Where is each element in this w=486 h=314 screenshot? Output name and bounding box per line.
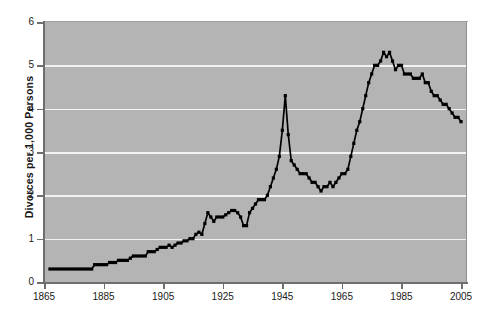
- data-point: [439, 98, 442, 101]
- data-point: [272, 176, 275, 179]
- data-point: [403, 72, 406, 75]
- data-point: [376, 64, 379, 67]
- data-point: [153, 250, 156, 253]
- data-point: [275, 168, 278, 171]
- data-point: [388, 51, 391, 54]
- data-point: [245, 224, 248, 227]
- data-point: [159, 246, 162, 249]
- data-point: [138, 254, 141, 257]
- data-point: [54, 267, 57, 270]
- data-point: [331, 185, 334, 188]
- data-point: [117, 259, 120, 262]
- data-point: [96, 263, 99, 266]
- data-point: [278, 155, 281, 158]
- data-point: [430, 90, 433, 93]
- data-point: [418, 77, 421, 80]
- data-point: [302, 172, 305, 175]
- data-point: [170, 246, 173, 249]
- data-point: [373, 64, 376, 67]
- data-point: [123, 259, 126, 262]
- data-point: [284, 94, 287, 97]
- data-point: [230, 209, 233, 212]
- data-point: [179, 241, 182, 244]
- data-point: [346, 168, 349, 171]
- data-point: [424, 81, 427, 84]
- data-point: [316, 185, 319, 188]
- data-point: [415, 77, 418, 80]
- data-point: [382, 51, 385, 54]
- data-point: [188, 237, 191, 240]
- data-point: [168, 244, 171, 247]
- data-point: [385, 55, 388, 58]
- data-point: [296, 168, 299, 171]
- data-point: [206, 211, 209, 214]
- data-point: [105, 263, 108, 266]
- data-point: [406, 72, 409, 75]
- data-point: [233, 209, 236, 212]
- data-point: [290, 159, 293, 162]
- data-point: [150, 250, 153, 253]
- data-point: [141, 254, 144, 257]
- data-point: [397, 64, 400, 67]
- data-point: [197, 231, 200, 234]
- data-point: [66, 267, 69, 270]
- data-point: [218, 215, 221, 218]
- data-point: [72, 267, 75, 270]
- data-point: [209, 215, 212, 218]
- data-point: [337, 176, 340, 179]
- data-point: [322, 185, 325, 188]
- data-point: [102, 263, 105, 266]
- data-point: [227, 211, 230, 214]
- data-point: [343, 172, 346, 175]
- data-point: [313, 181, 316, 184]
- data-point: [63, 267, 66, 270]
- data-point: [162, 246, 165, 249]
- data-point: [114, 261, 117, 264]
- data-point: [453, 116, 456, 119]
- data-point: [176, 241, 179, 244]
- data-point: [266, 194, 269, 197]
- data-point: [325, 185, 328, 188]
- data-point: [242, 224, 245, 227]
- data-point: [349, 155, 352, 158]
- data-point: [459, 120, 462, 123]
- data-point: [69, 267, 72, 270]
- data-point: [394, 68, 397, 71]
- data-point: [111, 261, 114, 264]
- data-point: [200, 233, 203, 236]
- data-point: [132, 254, 135, 257]
- data-point: [81, 267, 84, 270]
- data-point: [364, 94, 367, 97]
- data-point: [84, 267, 87, 270]
- data-point: [445, 103, 448, 106]
- data-point: [352, 142, 355, 145]
- data-point: [194, 233, 197, 236]
- data-point: [156, 248, 159, 251]
- data-point: [299, 172, 302, 175]
- data-point: [147, 250, 150, 253]
- data-point: [358, 120, 361, 123]
- data-point: [308, 176, 311, 179]
- data-point: [412, 77, 415, 80]
- data-point: [135, 254, 138, 257]
- data-point: [436, 94, 439, 97]
- data-point: [75, 267, 78, 270]
- data-point: [144, 254, 147, 257]
- data-point: [442, 103, 445, 106]
- data-point: [173, 244, 176, 247]
- chart-figure: Divorces per 1,000 Persons 0123456 18651…: [0, 0, 486, 314]
- data-point: [212, 220, 215, 223]
- data-point: [287, 133, 290, 136]
- data-point: [361, 107, 364, 110]
- data-point: [236, 211, 239, 214]
- data-point: [191, 237, 194, 240]
- data-point: [391, 59, 394, 62]
- data-point: [311, 181, 314, 184]
- data-point: [456, 116, 459, 119]
- series-line-0: [50, 52, 461, 269]
- data-point: [224, 213, 227, 216]
- data-point: [215, 215, 218, 218]
- data-point: [379, 59, 382, 62]
- data-point: [421, 72, 424, 75]
- data-point: [182, 239, 185, 242]
